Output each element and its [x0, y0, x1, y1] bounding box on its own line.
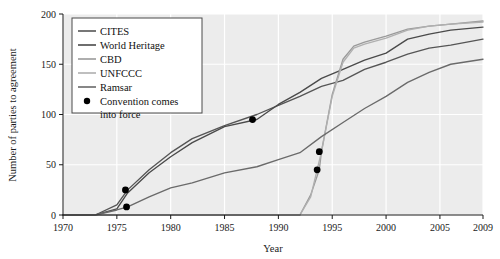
legend-label-convention-comes-into-force: into force — [100, 109, 141, 120]
chart-legend: CITESWorld HeritageCBDUNFCCCRamsarConven… — [72, 18, 202, 120]
x-axis-label: Year — [263, 243, 283, 254]
y-tick-label: 200 — [41, 9, 56, 20]
x-tick-label: 1995 — [322, 222, 342, 233]
x-tick-label: 2009 — [473, 222, 493, 233]
line-chart: 197019751980198519901995200020052009 050… — [0, 0, 500, 259]
x-tick-label: 1990 — [268, 222, 288, 233]
legend-label-cbd: CBD — [100, 54, 122, 65]
x-tick-label: 2000 — [376, 222, 396, 233]
y-axis-label: Number of parties to agreement — [7, 48, 18, 182]
legend-label-world-heritage: World Heritage — [100, 40, 165, 51]
force-marker-world-heritage — [122, 186, 129, 193]
x-tick-label: 1970 — [53, 222, 73, 233]
x-tick-label: 1975 — [107, 222, 127, 233]
force-marker-cbd — [316, 148, 323, 155]
x-tick-label: 1985 — [215, 222, 235, 233]
y-tick-label: 0 — [51, 210, 56, 221]
force-marker-unfccc — [314, 166, 321, 173]
y-tick-label: 100 — [41, 109, 56, 120]
force-marker-cites — [249, 116, 256, 123]
y-tick-label: 150 — [41, 59, 56, 70]
x-tick-label: 1980 — [161, 222, 181, 233]
x-tick-label: 2005 — [430, 222, 450, 233]
legend-label-unfccc: UNFCCC — [100, 68, 142, 79]
legend-label-ramsar: Ramsar — [100, 82, 133, 93]
legend-label-convention-comes-into-force: Convention comes — [100, 96, 178, 107]
legend-marker-dot — [84, 98, 90, 104]
chart-figure: 197019751980198519901995200020052009 050… — [0, 0, 500, 259]
force-marker-ramsar — [123, 204, 130, 211]
y-tick-label: 50 — [46, 159, 56, 170]
legend-label-cites: CITES — [100, 26, 129, 37]
